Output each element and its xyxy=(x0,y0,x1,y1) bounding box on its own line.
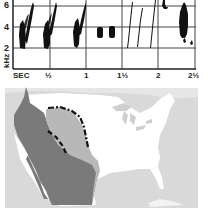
x-tick-label-half: ½ xyxy=(45,72,52,80)
y-axis-title: kHz xyxy=(2,54,11,68)
x-tick-label-sec: SEC xyxy=(13,72,29,80)
y-tick-label-6: 6 xyxy=(4,1,9,10)
figure: 6 4 2 kHz SEC ½ 1 1½ 2 2½ xyxy=(0,0,208,219)
x-tick-label-1: 1 xyxy=(84,72,88,80)
x-tick-label-2: 2 xyxy=(156,72,160,80)
x-tick-label-1half: 1½ xyxy=(117,72,128,80)
x-tick-label-2half: 2½ xyxy=(188,72,199,80)
y-tick-label-2: 2 xyxy=(4,44,9,53)
y-tick-label-4: 4 xyxy=(4,23,9,32)
range-map xyxy=(0,85,208,215)
sonogram-plot xyxy=(0,0,208,70)
sonogram-notes xyxy=(19,0,193,49)
